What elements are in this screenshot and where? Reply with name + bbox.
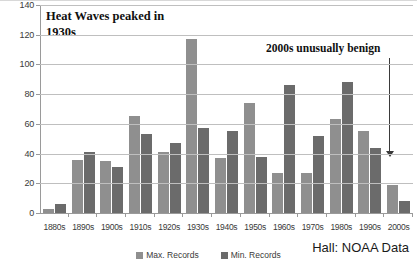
y-axis-tick-label: 20 xyxy=(0,178,34,188)
x-axis-tick-label: 1930s xyxy=(183,222,212,236)
bar-group xyxy=(298,5,327,213)
bar-max-records xyxy=(72,160,83,213)
bar-min-records xyxy=(284,85,295,213)
gridline xyxy=(40,94,413,95)
bar-group xyxy=(212,5,241,213)
bar-max-records xyxy=(387,185,398,213)
bar-min-records xyxy=(112,167,123,213)
x-axis-tick-label: 1940s xyxy=(212,222,241,236)
x-axis-tick-mark xyxy=(356,213,385,218)
legend-item[interactable]: Max. Records xyxy=(136,250,198,260)
x-axis-tick-mark xyxy=(69,213,98,218)
y-axis-tick-mark xyxy=(36,213,40,214)
x-axis-tick-mark xyxy=(327,213,356,218)
y-axis-tick-label: 120 xyxy=(0,30,34,40)
x-axis-tick-label: 1950s xyxy=(241,222,270,236)
bar-max-records xyxy=(129,116,140,213)
y-axis-tick-label: 0 xyxy=(0,208,34,218)
y-axis-tick-label: 140 xyxy=(0,0,34,10)
legend-swatch-icon xyxy=(221,252,228,259)
annotation-heat-waves-line2: 1930s xyxy=(46,24,196,40)
x-axis-tick-label: 1890s xyxy=(69,222,98,236)
bar-min-records xyxy=(399,201,410,213)
x-axis-tick-mark xyxy=(97,213,126,218)
x-axis-labels: 1880s1890s1900s1910s1920s1930s1940s1950s… xyxy=(40,222,413,236)
bar-group xyxy=(270,5,299,213)
x-axis-tick-label: 2000s xyxy=(384,222,413,236)
y-axis-tick-mark xyxy=(36,124,40,125)
bar-max-records xyxy=(272,173,283,213)
bar-min-records xyxy=(370,148,381,213)
x-axis-tick-label: 1880s xyxy=(40,222,69,236)
annotation-heat-waves-line1: Heat Waves peaked in xyxy=(46,8,196,24)
x-axis-tick-mark xyxy=(298,213,327,218)
bar-max-records xyxy=(301,173,312,213)
x-axis-tick-label: 1900s xyxy=(97,222,126,236)
x-axis-tick-mark xyxy=(212,213,241,218)
annotation-benign: 2000s unusually benign xyxy=(266,42,380,54)
y-axis-tick-label: 80 xyxy=(0,89,34,99)
legend-swatch-icon xyxy=(136,252,143,259)
x-axis-tick-mark xyxy=(126,213,155,218)
bar-min-records xyxy=(55,204,66,213)
bar-max-records xyxy=(100,161,111,213)
bar-min-records xyxy=(313,136,324,213)
x-axis-tick-label: 1920s xyxy=(155,222,184,236)
bar-chart: 1880s1890s1900s1910s1920s1930s1940s1950s… xyxy=(0,0,417,272)
bar-max-records xyxy=(358,131,369,213)
y-axis-tick-label: 40 xyxy=(0,149,34,159)
bar-group xyxy=(327,5,356,213)
chart-top-border xyxy=(0,0,417,1)
x-axis-tick-label: 1960s xyxy=(270,222,299,236)
gridline xyxy=(40,64,413,65)
x-axis-tick-mark xyxy=(183,213,212,218)
bar-min-records xyxy=(198,128,209,213)
y-axis-tick-label: 100 xyxy=(0,59,34,69)
gridline xyxy=(40,124,413,125)
x-axis-tick-label: 1980s xyxy=(327,222,356,236)
y-axis-tick-mark xyxy=(36,5,40,6)
legend-item-label: Min. Records xyxy=(231,250,281,260)
x-axis-tick-mark xyxy=(270,213,299,218)
y-axis-tick-label: 60 xyxy=(0,119,34,129)
bar-group xyxy=(241,5,270,213)
x-axis-tick-mark xyxy=(155,213,184,218)
x-axis-tick-label: 1990s xyxy=(356,222,385,236)
gridline xyxy=(40,35,413,36)
y-axis-tick-mark xyxy=(36,94,40,95)
bar-min-records xyxy=(141,134,152,213)
bar-group xyxy=(356,5,385,213)
y-axis-tick-mark xyxy=(36,154,40,155)
bar-min-records xyxy=(342,82,353,213)
bar-min-records xyxy=(227,131,238,213)
bar-max-records xyxy=(244,103,255,213)
down-arrow-icon-shaft xyxy=(389,58,390,154)
y-axis-tick-mark xyxy=(36,64,40,65)
source-note: Hall: NOAA Data xyxy=(312,240,409,255)
gridline xyxy=(40,5,413,6)
bar-min-records xyxy=(256,157,267,213)
bar-max-records xyxy=(330,119,341,213)
y-axis-tick-mark xyxy=(36,183,40,184)
gridline xyxy=(40,183,413,184)
x-axis-tick-mark xyxy=(241,213,270,218)
x-axis-tick-mark xyxy=(384,213,413,218)
x-axis-ticks xyxy=(40,213,413,218)
x-axis-tick-label: 1970s xyxy=(298,222,327,236)
x-axis-tick-mark xyxy=(40,213,69,218)
y-axis-tick-mark xyxy=(36,35,40,36)
gridline xyxy=(40,154,413,155)
bar-max-records xyxy=(215,158,226,213)
legend-item[interactable]: Min. Records xyxy=(221,250,281,260)
legend-item-label: Max. Records xyxy=(146,250,198,260)
x-axis-tick-label: 1910s xyxy=(126,222,155,236)
